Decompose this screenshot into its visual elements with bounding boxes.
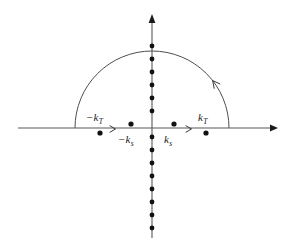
pole-label-neg-ks-sub: s <box>131 139 134 148</box>
real-axis-direction-marker <box>186 126 192 132</box>
imaginary-axis-pole-dot <box>150 70 155 75</box>
imaginary-axis-pole-dot <box>150 148 155 153</box>
real-axis-direction-markers <box>110 126 192 132</box>
imaginary-axis-pole-dot <box>150 83 155 88</box>
imaginary-axis-pole-dot <box>150 213 155 218</box>
imaginary-axis-pole-dot <box>150 44 155 49</box>
imaginary-axis-pole-dot <box>150 226 155 231</box>
imaginary-axis-pole-dot <box>150 109 155 114</box>
contour-diagram-canvas <box>0 0 293 248</box>
pole-label-pos-ks: ks <box>164 134 172 145</box>
imaginary-axis-pole-dot <box>150 187 155 192</box>
pole-dot-pos-kT <box>203 130 208 135</box>
pole-label-neg-kT-text: −k <box>86 111 99 123</box>
pole-label-pos-ks-sub: s <box>169 139 172 148</box>
imaginary-axis-pole-dot <box>150 161 155 166</box>
real-axis-arrowhead <box>270 125 278 132</box>
pole-dot-neg-ks <box>128 121 133 126</box>
pole-label-neg-kT-sub: T <box>99 117 103 126</box>
imaginary-axis-pole-dot <box>150 57 155 62</box>
real-axis-direction-marker <box>110 126 116 132</box>
pole-dot-pos-ks <box>171 121 176 126</box>
pole-label-pos-kT-sub: T <box>203 117 207 126</box>
imaginary-axis-pole-dot <box>150 96 155 101</box>
pole-label-neg-ks-text: −k <box>118 133 131 145</box>
imaginary-axis-arrowhead <box>149 14 156 23</box>
imaginary-axis-pole-dot <box>150 174 155 179</box>
imaginary-axis-pole-dot <box>150 200 155 205</box>
imaginary-axis-pole-dots <box>150 44 155 231</box>
pole-label-neg-ks: −ks <box>118 134 134 145</box>
imaginary-axis-pole-dot <box>150 135 155 140</box>
pole-label-neg-kT: −kT <box>86 112 103 123</box>
complex-plane-figure: −kT −ks ks kT <box>0 0 293 248</box>
pole-dot-neg-kT <box>97 130 102 135</box>
pole-label-pos-kT: kT <box>198 112 207 123</box>
